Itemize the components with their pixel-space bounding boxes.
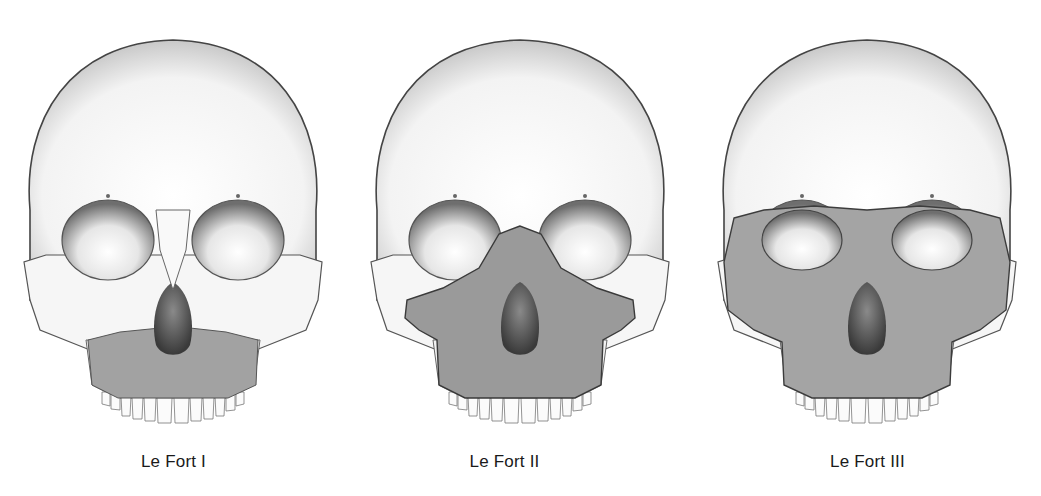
caption-le-fort-2: Le Fort II xyxy=(331,452,678,472)
panel-le-fort-2: Le Fort II xyxy=(347,0,694,496)
caption-le-fort-3: Le Fort III xyxy=(694,452,1041,472)
caption-le-fort-1: Le Fort I xyxy=(0,452,347,472)
skull-illustration-le-fort-1 xyxy=(0,0,347,440)
skull-illustration-le-fort-2 xyxy=(347,0,694,440)
skull-illustration-le-fort-3 xyxy=(694,0,1041,440)
panel-le-fort-3: Le Fort III xyxy=(694,0,1041,496)
panel-le-fort-1: Le Fort I xyxy=(0,0,347,496)
